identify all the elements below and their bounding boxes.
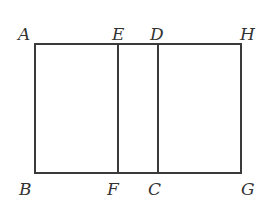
label-H: H [239,24,256,44]
label-E: E [111,24,125,44]
label-F: F [106,179,120,199]
label-D: D [149,24,164,44]
label-G: G [241,179,255,199]
outer-rectangle-ABGH [35,44,241,173]
label-C: C [148,179,161,199]
label-B: B [18,179,32,199]
geometry-diagram: A E D H B F C G [0,0,271,204]
label-A: A [16,24,30,44]
